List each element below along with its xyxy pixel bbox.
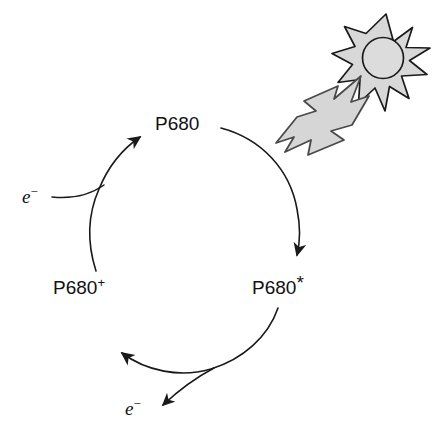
node-label-p680-star: P680* (252, 277, 304, 299)
node-label-p680-star-superscript: * (296, 272, 303, 293)
node-label-p680-plus: P680+ (53, 277, 105, 299)
electron-label-out: e− (125, 398, 141, 420)
node-label-p680-text: P680 (155, 113, 199, 134)
electron-label-out-superscript: − (133, 396, 140, 411)
electron-label-in: e− (22, 186, 38, 208)
arrow-star-to-plus (122, 308, 278, 373)
node-label-p680: P680 (155, 113, 199, 135)
lightning-bolt-arrow (276, 76, 369, 155)
node-label-p680-plus-base: P680 (53, 277, 97, 298)
node-label-p680-plus-superscript: + (97, 275, 105, 290)
electron-label-in-superscript: − (30, 184, 37, 199)
sun-core (363, 38, 404, 79)
diagram-canvas: P680 P680* P680+ e− e− (0, 0, 441, 447)
cycle-diagram-graphics (0, 0, 441, 447)
node-label-p680-star-base: P680 (252, 277, 296, 298)
arrow-plus-to-p680 (90, 137, 140, 271)
